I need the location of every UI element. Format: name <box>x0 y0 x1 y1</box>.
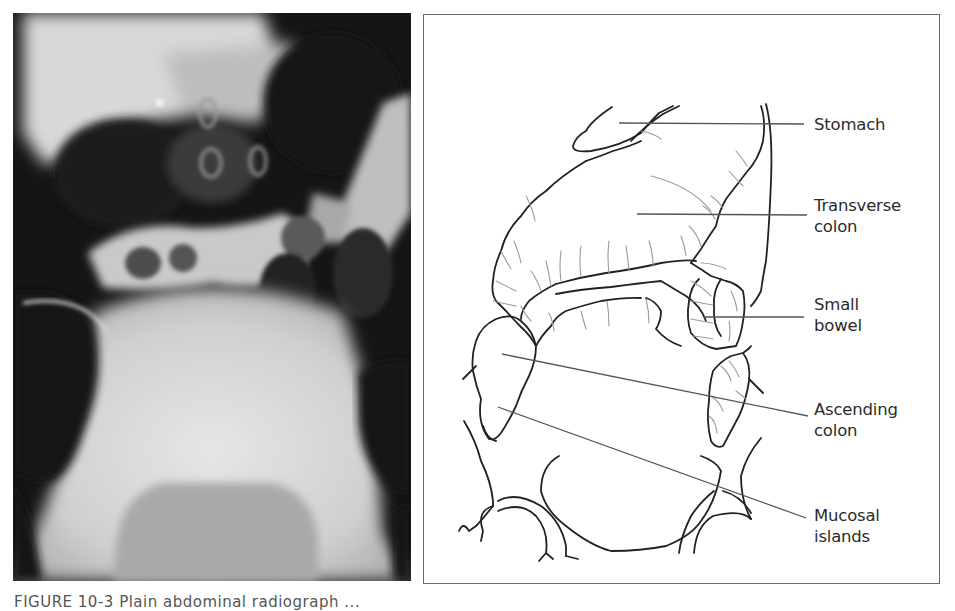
label-ascending-colon-line2: colon <box>814 420 898 441</box>
label-small-bowel-line2: bowel <box>814 315 862 336</box>
label-small-bowel-line1: Small <box>814 294 862 315</box>
label-mucosal-islands-line1: Mucosal <box>814 505 880 526</box>
label-mucosal-islands-line2: islands <box>814 526 880 547</box>
radiograph-image <box>13 13 411 581</box>
sacrum-outline <box>541 456 721 551</box>
label-small-bowel: Small bowel <box>814 294 862 336</box>
label-transverse-colon-line1: Transverse <box>814 195 901 216</box>
stomach-outline <box>573 106 673 151</box>
label-stomach: Stomach <box>814 114 885 135</box>
leader-stomach <box>619 123 804 124</box>
label-mucosal-islands: Mucosal islands <box>814 505 880 547</box>
label-stomach-line1: Stomach <box>814 114 885 135</box>
figure-caption: FIGURE 10-3 Plain abdominal radiograph .… <box>14 593 360 611</box>
pelvis-outline <box>464 421 493 506</box>
leader-transverse-colon <box>637 214 807 215</box>
label-ascending-colon-line1: Ascending <box>814 399 898 420</box>
ascending-colon-outline <box>472 316 536 439</box>
label-transverse-colon-line2: colon <box>814 216 901 237</box>
label-transverse-colon: Transverse colon <box>814 195 901 237</box>
transverse-colon-outline <box>492 161 586 346</box>
diagram-panel: Stomach Transverse colon Small bowel Asc… <box>423 14 940 584</box>
label-ascending-colon: Ascending colon <box>814 399 898 441</box>
leader-ascending-colon <box>502 354 808 416</box>
